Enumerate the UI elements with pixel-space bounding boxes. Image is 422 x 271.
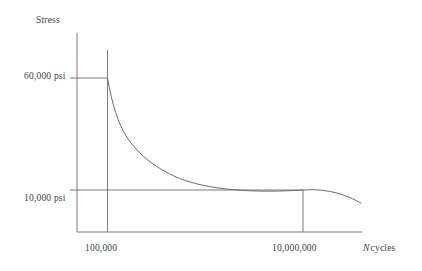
chart-canvas [0, 0, 422, 271]
fatigue-curve-line [108, 78, 362, 203]
y-axis-title: Stress [36, 15, 60, 25]
x-tick-label-100000: 100,000 [85, 243, 117, 253]
x-axis-title-symbol: N [363, 243, 371, 253]
sn-fatigue-chart: Stress 60,000 psi 10,000 psi 100,000 10,… [0, 0, 422, 271]
x-tick-label-10000000: 10,000,000 [272, 243, 317, 253]
y-tick-label-60000-psi: 60,000 psi [24, 71, 66, 81]
x-axis-title: Ncycles [363, 243, 395, 253]
y-tick-label-10000-psi: 10,000 psi [24, 193, 66, 203]
x-axis-title-unit: cycles [371, 243, 396, 253]
